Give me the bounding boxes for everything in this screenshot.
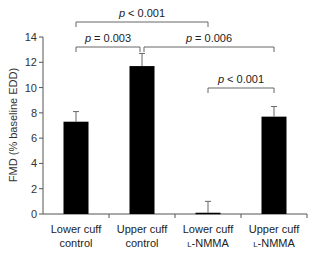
bar [64, 122, 89, 214]
y-tick-label: 10 [25, 82, 37, 94]
y-tick-label: 4 [31, 157, 37, 169]
category-label-line1: Upper cuff [117, 223, 168, 235]
x-axis: Lower cuffcontrolUpper cuffcontrolLower … [43, 214, 307, 249]
category-label-line1: Lower cuff [51, 223, 102, 235]
p-value-label: p = 0.006 [185, 32, 232, 44]
p-value-label: p = 0.003 [84, 32, 131, 44]
y-axis: 02468101214 [25, 31, 43, 220]
category-label-line2: control [59, 237, 92, 249]
y-axis-label: FMD (% baseline EDD) [7, 68, 19, 182]
significance-bracket [208, 88, 274, 93]
bar [130, 66, 155, 214]
significance-bracket [144, 47, 274, 52]
category-label-line2: control [125, 237, 158, 249]
category-label-line2: L-NMMA [187, 237, 229, 249]
p-value-label: p < 0.001 [118, 7, 165, 19]
p-value-label: p < 0.001 [217, 73, 264, 85]
significance-annotations: p < 0.001p = 0.003p = 0.006p < 0.001 [76, 7, 274, 93]
category-label-line1: Upper cuff [249, 223, 300, 235]
y-tick-label: 6 [31, 132, 37, 144]
category-label-line2: L-NMMA [253, 237, 295, 249]
y-tick-label: 2 [31, 183, 37, 195]
bar-chart: 02468101214 Lower cuffcontrolUpper cuffc… [0, 0, 317, 254]
significance-bracket [76, 22, 208, 27]
bar [262, 117, 287, 214]
bar [196, 213, 221, 215]
significance-bracket [76, 47, 140, 52]
y-tick-label: 8 [31, 107, 37, 119]
y-tick-label: 12 [25, 56, 37, 68]
y-tick-label: 14 [25, 31, 37, 43]
y-tick-label: 0 [31, 208, 37, 220]
category-label-line1: Lower cuff [183, 223, 234, 235]
